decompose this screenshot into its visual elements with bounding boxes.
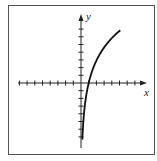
y-axis-arrow-icon (79, 14, 84, 21)
log-curve (82, 30, 120, 139)
x-axis-arrow-icon (140, 81, 147, 86)
x-axis-label: x (143, 86, 149, 98)
y-axis-label: y (85, 10, 91, 22)
axes (18, 18, 144, 148)
log-graph: y x (0, 0, 157, 161)
